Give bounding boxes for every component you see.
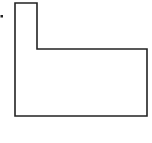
marker-dot [1,15,4,18]
diagram-canvas [0,0,152,143]
l-shape-outline [15,3,147,116]
